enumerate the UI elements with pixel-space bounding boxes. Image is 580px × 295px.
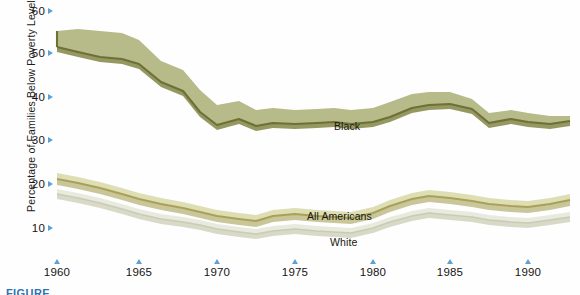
x-tick-1985: 1985 [432, 259, 468, 278]
series-label-white: White [330, 236, 357, 248]
x-tick-1965: 1965 [121, 259, 157, 278]
x-tick-1985-label: 1985 [437, 266, 463, 278]
x-tick-1960-label: 1960 [44, 266, 70, 278]
x-tick-1975: 1975 [277, 259, 313, 278]
series-label-black: Black [334, 120, 360, 132]
x-tick-1990-label: 1990 [515, 266, 541, 278]
series-label-all-americans: All Americans [307, 210, 372, 222]
x-tick-1975-label: 1975 [282, 266, 308, 278]
chart-plot-area [0, 0, 580, 295]
x-tick-arrow-icon [214, 259, 220, 264]
x-tick-1980-label: 1980 [360, 266, 386, 278]
series-band-black [57, 29, 570, 131]
x-tick-arrow-icon [54, 259, 60, 264]
x-tick-1960: 1960 [39, 259, 75, 278]
x-tick-arrow-icon [136, 259, 142, 264]
x-tick-1965-label: 1965 [126, 266, 152, 278]
x-tick-1980: 1980 [355, 259, 391, 278]
x-tick-1990: 1990 [510, 259, 546, 278]
x-tick-1970-label: 1970 [204, 266, 230, 278]
x-tick-1970: 1970 [199, 259, 235, 278]
poverty-chart-figure: Percentage of Families Below Poverty Lev… [0, 0, 580, 295]
figure-caption: FIGURE [6, 287, 50, 295]
x-tick-arrow-icon [370, 259, 376, 264]
x-tick-arrow-icon [525, 259, 531, 264]
x-tick-arrow-icon [447, 259, 453, 264]
x-tick-arrow-icon [292, 259, 298, 264]
